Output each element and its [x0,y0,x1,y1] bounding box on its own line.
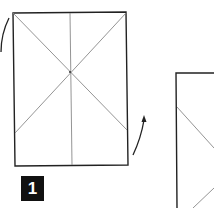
crease-center-dot [69,71,71,73]
vertical-center-crease [70,13,72,165]
step-2-sheet [176,73,214,208]
step-number-label: 1 [21,176,44,201]
step-2-diagonal-crease [177,107,214,148]
step-1-sheet [13,12,128,166]
step-2-lower-crease [193,188,214,208]
curved-arrow-left-icon [1,18,9,52]
curved-arrow-right-icon [133,115,147,155]
